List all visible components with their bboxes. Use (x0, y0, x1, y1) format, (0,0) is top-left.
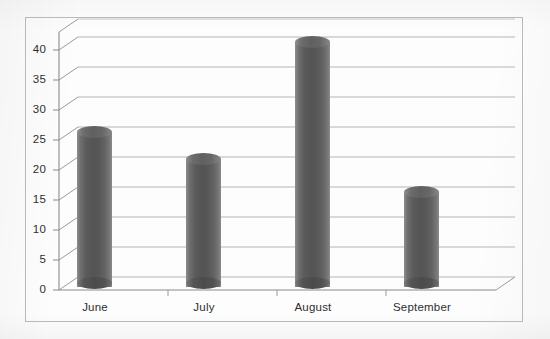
x-axis-label-august: August (281, 301, 345, 313)
depth-5 (59, 247, 78, 260)
y-axis-label-35: 35 (20, 73, 46, 85)
bar-july-body (186, 159, 221, 287)
bar-september-top (404, 186, 439, 198)
x-axis-label-july: July (174, 301, 234, 313)
y-axis-label-0: 0 (20, 283, 46, 295)
bar-july-top (186, 153, 221, 165)
y-tick-group (53, 50, 59, 290)
floor-right-edge (496, 277, 515, 290)
y-axis-label-5: 5 (20, 253, 46, 265)
bar-july-bottom (186, 277, 221, 289)
depth-40 (59, 37, 78, 50)
depth-30 (59, 97, 78, 110)
wall-top-edge (59, 19, 78, 32)
depth-25 (59, 127, 78, 140)
y-axis-label-10: 10 (20, 223, 46, 235)
y-axis-label-15: 15 (20, 193, 46, 205)
bar-august-top (295, 36, 330, 48)
depth-20 (59, 157, 78, 170)
bar-august (295, 36, 330, 293)
bar-june-top (77, 126, 112, 138)
bar-june-bottom (77, 277, 112, 289)
bar-september-bottom (404, 277, 439, 289)
bar-august-body (295, 42, 330, 287)
bar-june-body (77, 132, 112, 287)
bar-august-bottom (295, 277, 330, 289)
depth-connector-group (59, 37, 78, 290)
bar-chart-3d: 40 35 30 25 20 15 10 5 0 June July Augus… (0, 0, 550, 339)
x-axis-label-september: September (383, 301, 461, 313)
bar-september-body (404, 192, 439, 287)
bar-september (404, 186, 439, 293)
depth-35 (59, 67, 78, 80)
y-axis-label-20: 20 (20, 163, 46, 175)
x-axis-label-june: June (65, 301, 125, 313)
bar-july (186, 153, 221, 293)
y-axis-label-30: 30 (20, 103, 46, 115)
y-axis-label-40: 40 (20, 43, 46, 55)
depth-0 (59, 277, 78, 290)
depth-10 (59, 217, 78, 230)
bar-june (77, 126, 112, 293)
y-axis-label-25: 25 (20, 133, 46, 145)
depth-15 (59, 187, 78, 200)
